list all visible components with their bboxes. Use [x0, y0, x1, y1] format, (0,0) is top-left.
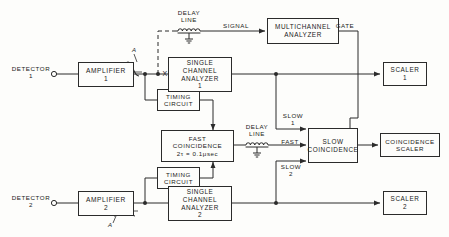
slow-coincidence-line1: SLOW: [322, 138, 343, 146]
fast-coincidence-line1: FAST: [189, 135, 207, 142]
label-slow-1: SLOW 1: [281, 112, 305, 127]
slow-2-line2: 2: [279, 170, 303, 177]
scaler-1-line2: 1: [403, 74, 407, 82]
slow-2-line1: SLOW: [279, 163, 303, 170]
label-cross-marker: X: [161, 70, 169, 78]
block-diagram: AMPLIFIER 1 TIMING CIRCUIT SINGLE CHANNE…: [0, 0, 449, 237]
coincidence-scaler-line2: SCALER: [396, 145, 424, 152]
block-scaler-2[interactable]: SCALER 2: [383, 191, 427, 215]
sca-2-line2: CHANNEL: [183, 196, 217, 204]
label-fast: FAST: [277, 138, 303, 145]
mca-line1: MULTICHANNEL: [275, 23, 331, 31]
timing-circuit-2-line2: CIRCUIT: [164, 178, 193, 185]
scaler-2-line2: 2: [403, 203, 407, 211]
amplifier-2-line1: AMPLIFIER: [86, 196, 126, 204]
block-multichannel-analyzer[interactable]: MULTICHANNEL ANALYZER: [267, 18, 339, 44]
label-detector-2: DETECTOR 2: [10, 194, 52, 209]
block-fast-coincidence[interactable]: FAST COINCIDENCE 2τ = 0.1μsec: [161, 130, 234, 162]
slow-coincidence-line2: COINCIDENCE: [308, 146, 359, 154]
label-waveform-a-bottom: A: [108, 222, 112, 228]
block-single-channel-analyzer-1[interactable]: SINGLE CHANNEL ANALYZER 1: [168, 57, 232, 92]
label-detector-1: DETECTOR 1: [10, 65, 52, 80]
sca-2-line4: 2: [198, 211, 202, 219]
sca-2-line3: ANALYZER: [181, 204, 219, 212]
sca-1-line2: CHANNEL: [183, 67, 217, 75]
sca-1-line3: ANALYZER: [181, 75, 219, 83]
block-slow-coincidence[interactable]: SLOW COINCIDENCE: [308, 128, 358, 163]
scaler-2-line1: SCALER: [391, 195, 420, 203]
label-delay-line-mid: DELAY LINE: [236, 123, 278, 138]
amplifier-1-line2: 1: [104, 75, 108, 83]
block-coincidence-scaler[interactable]: COINCIDENCE SCALER: [380, 133, 440, 157]
coincidence-scaler-line1: COINCIDENCE: [385, 138, 434, 145]
detector-2-line2: 2: [10, 201, 52, 208]
delay-line-top-line2: LINE: [168, 16, 210, 23]
block-amplifier-1[interactable]: AMPLIFIER 1: [78, 62, 134, 87]
scaler-1-line1: SCALER: [391, 66, 420, 74]
slow-1-line2: 1: [281, 119, 305, 126]
fast-coincidence-line2: COINCIDENCE: [173, 142, 222, 149]
label-signal: SIGNAL: [215, 22, 257, 29]
sca-2-line1: SINGLE: [187, 188, 214, 196]
timing-circuit-1-line2: CIRCUIT: [164, 100, 193, 107]
slow-1-line1: SLOW: [281, 112, 305, 119]
label-delay-line-top: DELAY LINE: [168, 9, 210, 24]
sca-1-line4: 1: [198, 82, 202, 90]
mca-line2: ANALYZER: [284, 31, 322, 39]
block-scaler-1[interactable]: SCALER 1: [383, 62, 427, 86]
sca-1-line1: SINGLE: [187, 59, 214, 67]
amplifier-2-line2: 2: [104, 204, 108, 212]
delay-line-mid-line2: LINE: [236, 130, 278, 137]
detector-2-line1: DETECTOR: [10, 194, 52, 201]
label-gate: GATE: [332, 22, 358, 29]
label-slow-2: SLOW 2: [279, 163, 303, 178]
delay-line-top-line1: DELAY: [168, 9, 210, 16]
fast-coincidence-line3: 2τ = 0.1μsec: [177, 150, 218, 157]
timing-circuit-2-line1: TIMING: [166, 171, 191, 178]
delay-line-mid-line1: DELAY: [236, 123, 278, 130]
block-single-channel-analyzer-2[interactable]: SINGLE CHANNEL ANALYZER 2: [168, 186, 232, 221]
amplifier-1-line1: AMPLIFIER: [86, 67, 126, 75]
detector-1-line2: 1: [10, 72, 52, 79]
detector-1-line1: DETECTOR: [10, 65, 52, 72]
block-amplifier-2[interactable]: AMPLIFIER 2: [78, 191, 134, 216]
block-timing-circuit-1[interactable]: TIMING CIRCUIT: [157, 89, 200, 111]
timing-circuit-1-line1: TIMING: [166, 93, 191, 100]
label-waveform-a-top: A: [132, 47, 136, 53]
